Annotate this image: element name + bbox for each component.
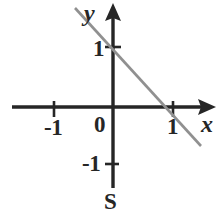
y-tick-label-neg1: -1 xyxy=(82,152,100,175)
curve-label-s: S xyxy=(104,190,117,213)
cartesian-line-plot: y x -1 1 0 1 -1 S xyxy=(0,0,224,215)
x-tick-label-pos1: 1 xyxy=(167,115,178,138)
x-axis-label: x xyxy=(201,112,213,136)
y-axis-label: y xyxy=(84,1,95,25)
plot-canvas xyxy=(0,0,224,215)
x-tick-label-neg1: -1 xyxy=(44,116,62,139)
origin-label: 0 xyxy=(94,113,106,136)
y-tick-label-pos1: 1 xyxy=(93,37,104,60)
